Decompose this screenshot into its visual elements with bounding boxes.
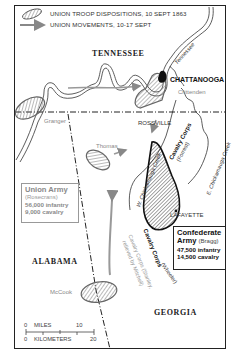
union-army-title: Union Army xyxy=(25,186,75,194)
scale-miles-start: 0 xyxy=(24,323,27,329)
confederate-army-commander: (Bragg) xyxy=(199,238,219,244)
place-rossville: ROSSVILLE xyxy=(138,120,171,126)
confederate-army-title-2: Army (Bragg) xyxy=(177,237,222,245)
place-crittenden: Crittenden xyxy=(178,89,206,95)
union-army-box: Union Army (Rosecrans) 56,000 infantry 9… xyxy=(21,183,79,223)
confederate-army-infantry: 47,500 infantry xyxy=(177,246,222,253)
union-army-cavalry: 9,000 cavalry xyxy=(25,208,75,215)
union-army-infantry: 56,000 infantry xyxy=(25,201,75,208)
chattanooga-mark xyxy=(158,71,167,83)
state-georgia: GEORGIA xyxy=(154,309,197,317)
legend-dispositions-label: UNION TROOP DISPOSITIONS, 10 SEPT 1863 xyxy=(50,11,187,17)
union-movement-arrows xyxy=(68,86,156,275)
scale-miles-end: 10 xyxy=(76,323,82,329)
place-lafayette: LAFAYETTE xyxy=(170,212,204,218)
state-tennessee: TENNESSEE xyxy=(92,50,145,58)
place-granger: Granger xyxy=(44,118,66,124)
scale-km-end: 20 xyxy=(90,337,96,343)
union-army-commander: (Rosecrans) xyxy=(25,194,75,201)
scale-bar xyxy=(26,329,94,335)
place-thomas: Thomas xyxy=(96,143,118,149)
legend-movements-label: UNION MOVEMENTS, 10-17 SEPT xyxy=(50,22,151,28)
legend-hatched-ellipse-icon xyxy=(21,7,43,21)
state-alabama: ALABAMA xyxy=(32,258,78,266)
confederate-army-box: Confederate Army (Bragg) 47,500 infantry… xyxy=(173,226,226,270)
scale-miles-label: MILES xyxy=(34,323,51,329)
scale-km-start: 0 xyxy=(24,337,27,343)
scale-km-label: KILOMETERS xyxy=(34,337,71,343)
place-chattanooga: CHATTANOOGA xyxy=(170,76,224,83)
place-mccook: McCook xyxy=(50,289,72,295)
confederate-army-cavalry: 14,500 cavalry xyxy=(177,253,222,260)
